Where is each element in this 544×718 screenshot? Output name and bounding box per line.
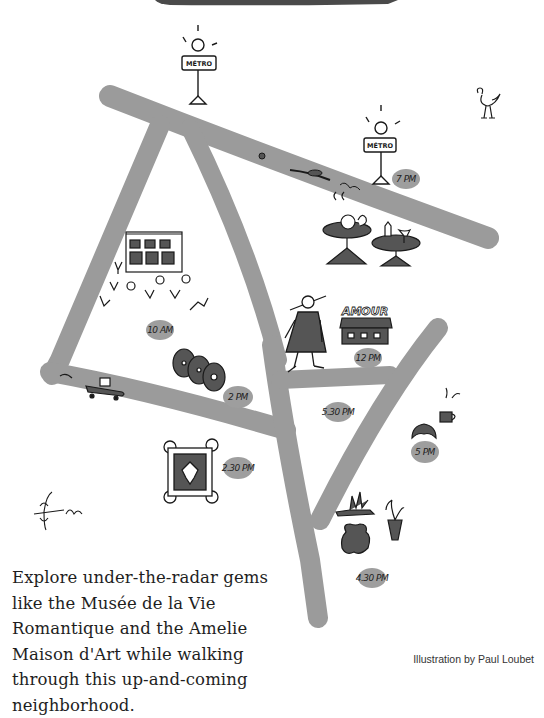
time-marker-230pm[interactable]: 2.30 PM xyxy=(222,457,255,479)
time-marker-12pm[interactable]: 12 PM xyxy=(354,348,382,368)
time-marker-10am[interactable]: 10 AM xyxy=(146,320,174,340)
building-icon xyxy=(126,232,182,272)
woman-figure-icon xyxy=(285,296,326,372)
vinyl-records-icon xyxy=(173,349,225,391)
plants-icon xyxy=(336,492,404,553)
road-main-diagonal xyxy=(110,96,488,238)
svg-text:4.30 PM: 4.30 PM xyxy=(356,573,389,583)
coffee-croissant-icon xyxy=(412,388,460,438)
road-cross xyxy=(280,375,390,380)
dragonfly-icon xyxy=(34,492,82,530)
amour-shop-icon: AMOUR xyxy=(340,305,392,344)
illustration-credit: Illustration by Paul Loubet xyxy=(413,653,534,665)
time-marker-2pm[interactable]: 2 PM xyxy=(223,386,253,408)
svg-text:2 PM: 2 PM xyxy=(228,392,249,402)
svg-text:10 AM: 10 AM xyxy=(147,325,173,335)
svg-text:5.30 PM: 5.30 PM xyxy=(322,407,355,417)
bird-icon xyxy=(477,88,500,118)
framed-painting-icon xyxy=(164,439,218,503)
header-banner xyxy=(155,0,398,5)
shop-sign-text: AMOUR xyxy=(341,305,388,318)
svg-text:2.30 PM: 2.30 PM xyxy=(222,463,255,473)
metro-sign-2: MÉTRO xyxy=(364,105,400,184)
svg-text:7 PM: 7 PM xyxy=(396,174,417,184)
time-marker-7pm[interactable]: 7 PM xyxy=(392,169,420,189)
map-caption: Explore under-the-radar gems like the Mu… xyxy=(12,565,272,718)
metro-sign-1: MÉTRO xyxy=(182,25,217,104)
time-marker-530pm[interactable]: 5.30 PM xyxy=(322,402,355,422)
svg-text:5 PM: 5 PM xyxy=(415,447,436,457)
time-marker-430pm[interactable]: 4.30 PM xyxy=(356,568,389,588)
svg-text:12 PM: 12 PM xyxy=(355,353,381,363)
roads xyxy=(50,96,488,618)
time-marker-5pm[interactable]: 5 PM xyxy=(411,441,439,463)
metro-sign-1-label: MÉTRO xyxy=(186,59,212,68)
metro-sign-2-label: MÉTRO xyxy=(367,141,393,150)
